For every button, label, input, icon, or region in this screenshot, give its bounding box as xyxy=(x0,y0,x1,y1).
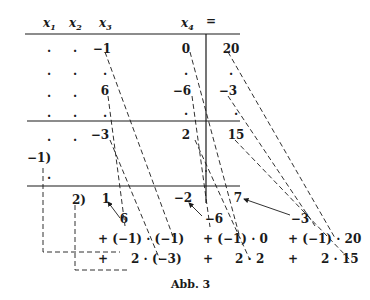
cell: · xyxy=(103,110,107,122)
term2-x3: 2 · (−3) xyxy=(131,253,182,265)
cell: −6 xyxy=(173,85,191,97)
term2-x4-plus: + xyxy=(203,253,213,265)
cell: · xyxy=(47,110,51,122)
term1-x4: + (−1) · 0 xyxy=(203,233,268,245)
figure-caption: Abb. 3 xyxy=(171,278,210,291)
pivot-x3: 6 xyxy=(120,213,128,225)
cell: 6 xyxy=(101,85,109,97)
cell: 20 xyxy=(223,43,240,55)
extra-dot: · xyxy=(47,172,51,184)
multiplier-2: 2) xyxy=(72,194,86,206)
cell: · xyxy=(184,108,188,120)
cell: · xyxy=(47,134,51,146)
cell: · xyxy=(184,68,188,80)
pivot-rhs: −3 xyxy=(291,213,309,225)
cell: · xyxy=(47,90,51,102)
cell: · xyxy=(73,45,77,57)
cell: · xyxy=(234,108,238,120)
cell: 2 xyxy=(182,129,190,141)
header-x1: x1 xyxy=(43,17,56,33)
term2-rhs-plus: + xyxy=(288,253,298,265)
cell: · xyxy=(73,134,77,146)
cell: · xyxy=(73,68,77,80)
cell: · xyxy=(47,45,51,57)
cell: · xyxy=(73,110,77,122)
header-equals: = xyxy=(206,15,216,27)
term1-rhs: + (−1) · 20 xyxy=(288,233,361,245)
cell: · xyxy=(73,90,77,102)
result-x4: −2 xyxy=(174,192,192,204)
pivot-x4: −6 xyxy=(205,213,223,225)
header-x2: x2 xyxy=(69,17,82,33)
result-x3: 1 xyxy=(102,193,110,205)
term1-x3: + (−1) · (−1) xyxy=(98,233,184,245)
cell: · xyxy=(229,68,233,80)
term2-x3-plus: + xyxy=(98,253,108,265)
cell: 15 xyxy=(228,129,245,141)
result-rhs: 7 xyxy=(234,192,242,204)
cell: −3 xyxy=(91,129,109,141)
term2-rhs: 2 · 15 xyxy=(321,253,359,265)
cell: −1 xyxy=(93,43,111,55)
multiplier-1: −1) xyxy=(27,152,51,164)
header-x3: x3 xyxy=(99,17,112,33)
term2-x4: 2 · 2 xyxy=(235,253,264,265)
cell: −3 xyxy=(219,85,237,97)
cell: · xyxy=(47,68,51,80)
cell: 0 xyxy=(182,43,190,55)
cell: · xyxy=(103,68,107,80)
header-x4: x4 xyxy=(181,17,194,33)
